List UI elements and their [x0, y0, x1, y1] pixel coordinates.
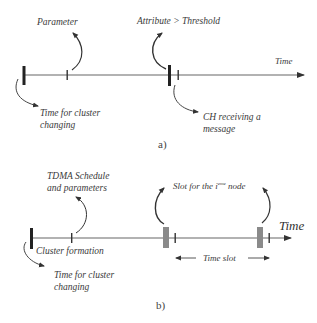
- tdma-label-line2: and parameters: [47, 183, 107, 194]
- diagram-a: [16, 33, 304, 112]
- caption-a: a): [158, 138, 167, 150]
- time-axis-label-b: Time: [279, 220, 304, 231]
- ch-receive-tick: [178, 70, 179, 80]
- timeline-diagrams: [0, 0, 317, 323]
- time-slot-label: Time slot: [203, 253, 236, 264]
- tdma-label-line1: TDMA Schedule: [47, 171, 109, 182]
- caption-b: b): [156, 299, 165, 311]
- ch-receiving-label-line2: message: [203, 124, 235, 135]
- slot-arrow-1: [155, 188, 164, 224]
- cluster-change-label-a-line1: Time for cluster: [40, 108, 100, 119]
- slot-block-2: [257, 227, 263, 248]
- slot-label-sup: eme: [218, 181, 226, 186]
- slot-label-prefix: Slot for the i: [173, 181, 218, 191]
- cluster-change-label-b-line1: Time for cluster: [54, 270, 114, 281]
- cluster-formation-label: Cluster formation: [36, 246, 104, 257]
- cluster-change-label-a-line2: changing: [40, 120, 75, 131]
- tdma-arrow: [76, 197, 87, 233]
- parameter-tick: [67, 70, 68, 80]
- attribute-threshold-label: Attribute > Threshold: [137, 16, 220, 27]
- ch-receiving-label-line1: CH receiving a: [203, 112, 261, 123]
- cluster-change-arrow-a: [16, 79, 38, 106]
- time-axis-label-a: Time: [275, 56, 293, 67]
- slot-tick-1: [175, 233, 176, 243]
- cluster-change-label-b-line2: changing: [54, 282, 89, 293]
- parameter-label: Parameter: [37, 17, 78, 28]
- cluster-change-tick-a: [23, 66, 26, 85]
- slot-label-suffix: node: [226, 181, 246, 191]
- slot-label: Slot for the ieme node: [173, 178, 246, 192]
- threshold-arrow: [153, 33, 166, 69]
- threshold-tick: [168, 65, 171, 86]
- ch-receiving-arrow: [174, 85, 198, 112]
- cluster-formation-tick: [71, 233, 72, 243]
- slot-arrow-2: [262, 188, 270, 223]
- slot-block-1: [163, 227, 169, 248]
- slot-tick-2: [269, 233, 270, 243]
- parameter-arrow: [72, 33, 82, 70]
- cluster-change-tick-b: [30, 228, 33, 249]
